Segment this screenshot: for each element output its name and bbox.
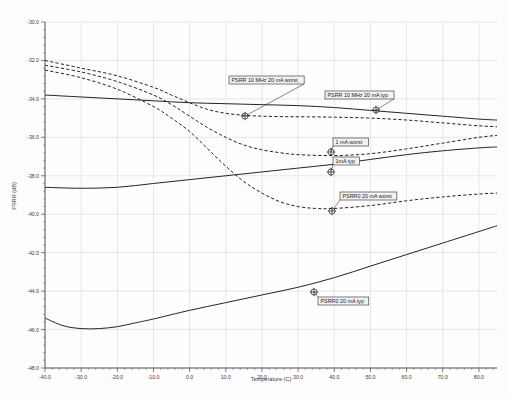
y-tick-label: -30.0 — [27, 19, 39, 25]
x-tick-label: -10.0 — [148, 374, 160, 380]
annotation-label: PSRR 10 MHz 20 mA worst — [232, 77, 299, 83]
annotation-label: PSRR0 20 mA typ — [321, 298, 364, 304]
x-tick-label: 80.0 — [474, 374, 484, 380]
x-tick-label: 40.0 — [329, 374, 339, 380]
y-tick-label: -48.0 — [27, 365, 39, 371]
annotation-label: PSRR0 20 mA worst — [343, 193, 393, 199]
y-axis-title: PSRR (dB) — [11, 182, 17, 210]
annotation-label: PSRR 10 MHz 20 mA typ — [328, 92, 389, 98]
x-tick-label: 30.0 — [293, 374, 303, 380]
psrr-vs-temperature-chart: -40.0-30.0-20.0-10.00.010.020.030.040.05… — [0, 0, 507, 399]
x-tick-label: 70.0 — [438, 374, 448, 380]
x-tick-label: 60.0 — [402, 374, 412, 380]
y-tick-label: -46.0 — [27, 327, 39, 333]
x-axis-title: Temperature (C) — [251, 376, 292, 382]
y-tick-label: -40.0 — [27, 211, 39, 217]
x-tick-label: 0.0 — [186, 374, 193, 380]
x-tick-label: -30.0 — [75, 374, 87, 380]
y-tick-label: -42.0 — [27, 250, 39, 256]
annotation-label: 1mA typ — [336, 158, 355, 164]
x-tick-label: 10.0 — [221, 374, 231, 380]
y-tick-label: -36.0 — [27, 134, 39, 140]
x-tick-label: -40.0 — [39, 374, 51, 380]
chart-root: -40.0-30.0-20.0-10.00.010.020.030.040.05… — [0, 0, 507, 399]
y-tick-label: -44.0 — [27, 288, 39, 294]
x-tick-label: -20.0 — [111, 374, 123, 380]
plot-background — [0, 0, 507, 399]
y-tick-label: -34.0 — [27, 96, 39, 102]
y-tick-label: -32.0 — [27, 57, 39, 63]
annotation-label: 1 mA worst — [336, 139, 363, 145]
y-tick-label: -38.0 — [27, 173, 39, 179]
x-tick-label: 50.0 — [365, 374, 375, 380]
